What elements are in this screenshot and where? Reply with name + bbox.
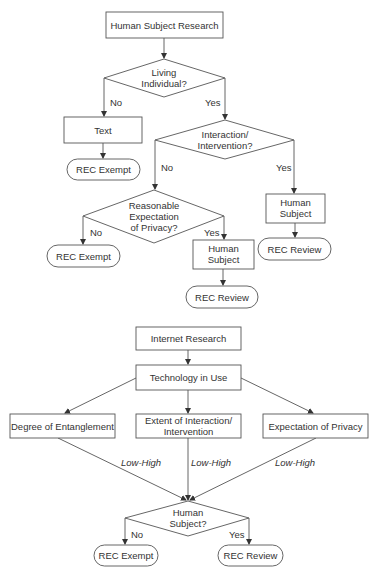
decision-label: of Privacy?: [131, 222, 178, 233]
edge-expectation-to-human: [190, 438, 316, 500]
decision-label: Human: [173, 507, 204, 518]
node-label: Internet Research: [151, 333, 227, 344]
node-label: Text: [94, 125, 112, 136]
node-human-subject-privacy: Human Subject: [193, 240, 254, 269]
terminal-label: REC Review: [195, 292, 249, 303]
decision-label: Living: [152, 67, 177, 78]
node-label: Degree of Entanglement: [11, 421, 114, 432]
terminal-label: REC Exempt: [76, 164, 131, 175]
node-text: Text: [64, 117, 142, 143]
decision-label: Subject?: [170, 518, 207, 529]
edge-label-yes: Yes: [229, 529, 245, 540]
node-label: Technology in Use: [150, 372, 228, 383]
terminal-rec-review-privacy: REC Review: [186, 286, 258, 308]
decision-label: Reasonable: [129, 200, 180, 211]
node-internet-research: Internet Research: [136, 327, 241, 350]
decision-reasonable-expectation-of-privacy: Reasonable Expectation of Privacy?: [83, 190, 224, 243]
node-label: Subject: [280, 208, 312, 219]
edge-label-no: No: [110, 97, 122, 108]
terminal-label: REC Review: [224, 550, 278, 561]
decision-living-individual: Living Individual?: [104, 59, 225, 97]
edge-tech-to-degree: [65, 378, 136, 413]
edge-degree-to-human: [58, 438, 186, 500]
edge-label-yes: Yes: [205, 97, 221, 108]
edge-label-no: No: [90, 227, 102, 238]
decision-label: Individual?: [141, 78, 186, 89]
terminal-rec-review-internet: REC Review: [218, 545, 283, 566]
terminal-rec-exempt-privacy: REC Exempt: [47, 245, 120, 267]
edge-label-low-high: Low-High: [121, 457, 161, 468]
terminal-label: REC Exempt: [56, 251, 111, 262]
diagram-internet-research: Internet Research Technology in Use Degr…: [10, 327, 368, 566]
edge-label-no: No: [161, 162, 173, 173]
node-label: Expectation of Privacy: [269, 421, 363, 432]
decision-interaction-intervention: Interaction/ Intervention?: [155, 120, 294, 159]
edge-label-no: No: [131, 529, 143, 540]
decision-label: Intervention?: [198, 140, 253, 151]
node-human-subject-right: Human Subject: [266, 194, 325, 223]
terminal-label: REC Exempt: [99, 550, 154, 561]
edge-label-yes: Yes: [276, 162, 292, 173]
decision-label: Expectation: [129, 211, 179, 222]
flowchart-canvas: Human Subject Research Living Individual…: [0, 0, 381, 575]
node-label: Human Subject Research: [110, 20, 218, 31]
node-extent-of-interaction: Extent of Interaction/ Intervention: [136, 414, 241, 438]
edge-tech-to-expectation: [241, 378, 313, 413]
node-human-subject-research: Human Subject Research: [106, 12, 223, 38]
terminal-label: REC Review: [268, 244, 322, 255]
edge-label-low-high: Low-High: [275, 457, 315, 468]
terminal-rec-exempt: REC Exempt: [67, 159, 140, 180]
node-degree-of-entanglement: Degree of Entanglement: [10, 414, 115, 438]
node-label: Intervention: [164, 426, 214, 437]
node-label: Subject: [208, 254, 240, 265]
node-expectation-of-privacy: Expectation of Privacy: [263, 414, 368, 438]
node-label: Human: [208, 243, 239, 254]
node-label: Extent of Interaction/: [145, 415, 232, 426]
terminal-rec-exempt-internet: REC Exempt: [94, 545, 158, 566]
decision-label: Interaction/: [202, 129, 249, 140]
node-label: Human: [280, 197, 311, 208]
edge-label-low-high: Low-High: [191, 457, 231, 468]
terminal-rec-review-right: REC Review: [258, 238, 331, 260]
edge-label-yes: Yes: [204, 227, 220, 238]
node-technology-in-use: Technology in Use: [136, 365, 241, 390]
diagram-human-subject-research: Human Subject Research Living Individual…: [47, 12, 331, 308]
